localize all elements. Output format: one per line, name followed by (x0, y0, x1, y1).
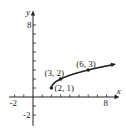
x-axis-label: x (116, 86, 121, 96)
point-label: (6, 3) (76, 59, 96, 69)
x-tick-label: -2 (10, 98, 18, 108)
labels: -288-2xy(2, 1)(3, 2)(6, 3) (10, 7, 121, 120)
y-arrow-icon (31, 11, 35, 16)
point-label: (2, 1) (54, 83, 74, 93)
point-marker (50, 86, 54, 90)
axes (9, 11, 119, 126)
y-tick-label: 8 (27, 20, 32, 30)
x-tick-label: 8 (104, 98, 109, 108)
y-axis-label: y (25, 7, 30, 17)
y-tick-label: -2 (23, 110, 31, 120)
curve-arrow-icon (111, 63, 117, 67)
point-label: (3, 2) (45, 68, 65, 78)
graph: -288-2xy(2, 1)(3, 2)(6, 3) (0, 0, 126, 131)
